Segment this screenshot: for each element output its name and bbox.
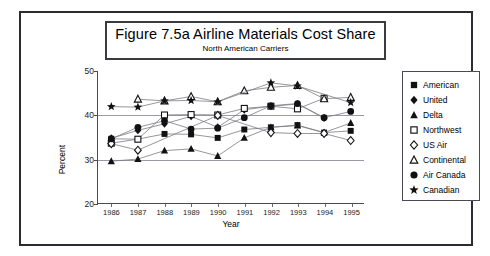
x-tick-mark-1987 bbox=[138, 204, 139, 207]
plot-wrapper: Percent 50403020 19861987198819891990199… bbox=[68, 69, 398, 221]
legend-item-label: US Air bbox=[423, 140, 447, 150]
legend-item-united[interactable]: United bbox=[407, 92, 479, 107]
x-tick-label-1988: 1988 bbox=[156, 208, 173, 217]
filled-square-icon bbox=[407, 79, 421, 91]
page-title: Figure 7.5a Airline Materials Cost Share bbox=[115, 25, 375, 43]
legend-item-label: Continental bbox=[423, 155, 466, 165]
figure-screenshot: Figure 7.5a Airline Materials Cost Share… bbox=[0, 0, 490, 256]
legend: AmericanUnitedDeltaNorthwestUS AirContin… bbox=[402, 71, 480, 201]
legend-item-label: Delta bbox=[423, 110, 443, 120]
series-plot bbox=[98, 71, 364, 203]
x-tick-label-1992: 1992 bbox=[263, 208, 280, 217]
legend-item-label: Air Canada bbox=[423, 170, 466, 180]
x-tick-label-1987: 1987 bbox=[130, 208, 147, 217]
filled-diamond-icon bbox=[407, 94, 421, 106]
legend-item-label: Northwest bbox=[423, 125, 461, 135]
x-tick-label-1994: 1994 bbox=[317, 208, 334, 217]
legend-item-american[interactable]: American bbox=[407, 77, 479, 92]
page-subtitle: North American Carriers bbox=[203, 43, 289, 55]
filled-circle-icon bbox=[407, 169, 421, 181]
filled-star-icon bbox=[407, 184, 421, 196]
x-tick-mark-1992 bbox=[272, 204, 273, 207]
legend-item-air-canada[interactable]: Air Canada bbox=[407, 167, 479, 182]
x-tick-label-1993: 1993 bbox=[290, 208, 307, 217]
legend-item-delta[interactable]: Delta bbox=[407, 107, 479, 122]
legend-item-label: American bbox=[423, 80, 459, 90]
open-square-icon bbox=[407, 124, 421, 136]
x-tick-mark-1989 bbox=[191, 204, 192, 207]
x-tick-label-1990: 1990 bbox=[210, 208, 227, 217]
x-tick-mark-1988 bbox=[165, 204, 166, 207]
x-tick-label-1991: 1991 bbox=[237, 208, 254, 217]
y-axis-label: Percent bbox=[57, 145, 67, 174]
x-tick-mark-1986 bbox=[111, 204, 112, 207]
legend-item-label: United bbox=[423, 95, 448, 105]
legend-item-us-air[interactable]: US Air bbox=[407, 137, 479, 152]
x-tick-mark-1994 bbox=[325, 204, 326, 207]
series-canadian bbox=[107, 78, 355, 110]
series-air-canada bbox=[108, 100, 354, 142]
open-diamond-icon bbox=[407, 139, 421, 151]
legend-item-continental[interactable]: Continental bbox=[407, 152, 479, 167]
x-tick-label-1995: 1995 bbox=[343, 208, 360, 217]
filled-triangle-icon bbox=[407, 109, 421, 121]
x-tick-mark-1995 bbox=[352, 204, 353, 207]
x-tick-mark-1991 bbox=[245, 204, 246, 207]
x-tick-mark-1990 bbox=[218, 204, 219, 207]
x-tick-mark-1993 bbox=[298, 204, 299, 207]
legend-item-northwest[interactable]: Northwest bbox=[407, 122, 479, 137]
x-tick-label-1989: 1989 bbox=[183, 208, 200, 217]
plot-area: 50403020 1986198719881989199019911992199… bbox=[97, 71, 364, 204]
y-tick-mark-20 bbox=[94, 204, 98, 205]
x-axis-label: Year bbox=[222, 219, 239, 229]
title-box: Figure 7.5a Airline Materials Cost Share… bbox=[105, 21, 386, 60]
open-triangle-icon bbox=[407, 154, 421, 166]
figure-outer-frame: Figure 7.5a Airline Materials Cost Share… bbox=[19, 11, 473, 246]
legend-item-canadian[interactable]: Canadian bbox=[407, 182, 479, 197]
legend-item-label: Canadian bbox=[423, 185, 459, 195]
x-tick-label-1986: 1986 bbox=[103, 208, 120, 217]
